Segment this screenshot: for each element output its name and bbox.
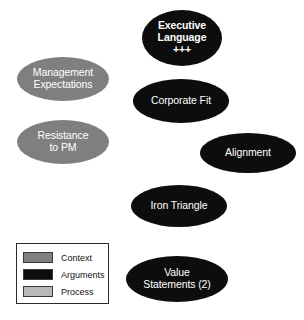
legend-swatch-context <box>23 252 53 263</box>
legend-label-arguments: Arguments <box>61 270 105 280</box>
node-iron-triangle-label: Iron Triangle <box>147 200 210 212</box>
node-value-statements-label: Value Statements (2) <box>140 267 213 291</box>
legend-label-process: Process <box>61 287 94 297</box>
node-resistance-to-pm[interactable]: Resistance to PM <box>17 120 109 164</box>
node-executive-language-label: Executive Language +++ <box>155 20 210 55</box>
node-management-expectations-label: Management Expectations <box>30 67 96 91</box>
node-executive-language[interactable]: Executive Language +++ <box>142 10 222 66</box>
node-resistance-to-pm-label: Resistance to PM <box>35 130 92 154</box>
legend-label-context: Context <box>61 253 92 263</box>
node-value-statements[interactable]: Value Statements (2) <box>126 256 228 302</box>
node-alignment-label: Alignment <box>222 147 274 159</box>
node-management-expectations[interactable]: Management Expectations <box>17 57 109 101</box>
node-corporate-fit-label: Corporate Fit <box>148 95 214 107</box>
legend: Context Arguments Process <box>16 243 109 304</box>
node-corporate-fit[interactable]: Corporate Fit <box>133 79 229 123</box>
concept-map-diagram: Executive Language +++ Management Expect… <box>0 0 304 320</box>
legend-item-arguments: Arguments <box>17 266 108 283</box>
legend-swatch-process <box>23 286 53 297</box>
node-iron-triangle[interactable]: Iron Triangle <box>131 185 227 227</box>
node-alignment[interactable]: Alignment <box>200 133 296 173</box>
legend-item-context: Context <box>17 249 108 266</box>
legend-item-process: Process <box>17 283 108 300</box>
legend-swatch-arguments <box>23 269 53 280</box>
